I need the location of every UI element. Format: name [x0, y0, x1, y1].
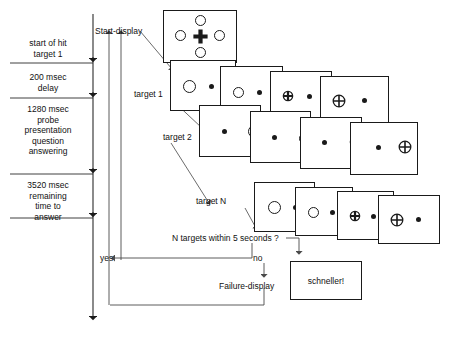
small-dot-stimulus [272, 135, 277, 140]
ring-with-cross-stimulus [398, 140, 412, 154]
failure-display-label: Failure-display [219, 281, 274, 291]
small-dot-stimulus [222, 129, 227, 134]
medium-ring-stimulus [233, 87, 244, 98]
timeline-phase-4: 3520 msec remaining time to answer [5, 180, 91, 222]
small-dot-stimulus [209, 84, 214, 89]
medium-ring-stimulus [308, 207, 319, 218]
feedback-message: schneller! [308, 276, 344, 286]
start-display-label: Start-display [95, 26, 142, 36]
timeline-phase-3: 1280 msec probe presentation question an… [5, 104, 91, 157]
timeline-phase-4-line-1: 3520 msec [27, 180, 69, 190]
decision-label: N targets within 5 seconds ? [172, 233, 279, 243]
target-n-label: target N [196, 196, 226, 206]
target-n-frame-4 [378, 195, 440, 244]
target-2-label: target 2 [163, 132, 192, 142]
diagram-canvas: start of hit target 1 200 msec delay 128… [0, 0, 467, 341]
timeline-phase-1-line-2: target 1 [34, 49, 63, 59]
large-ring-stimulus [183, 80, 196, 93]
feedback-display-box: schneller! [290, 261, 362, 300]
start-ring-bottom [195, 47, 206, 58]
timeline-phase-3-line-2: probe [37, 115, 59, 125]
small-dot-stimulus [307, 94, 312, 99]
yes-label: yes [100, 253, 113, 263]
timeline-phase-4-line-3: time to [35, 201, 61, 211]
timeline-phase-4-line-4: answer [34, 212, 61, 222]
plus-cross-icon [192, 28, 209, 45]
large-ring-stimulus [268, 201, 281, 214]
timeline-phase-3-line-4: question [32, 136, 64, 146]
target-1-label: target 1 [134, 89, 163, 99]
timeline-phase-2-line-2: delay [38, 83, 58, 93]
start-ring-left [175, 30, 186, 41]
return-risers [109, 32, 121, 305]
ring-with-cross-stimulus [332, 94, 346, 108]
small-dot-stimulus [257, 90, 262, 95]
no-label: no [253, 253, 262, 263]
timeline-phase-2: 200 msec delay [5, 72, 91, 93]
small-dot-stimulus [322, 140, 327, 145]
small-dot-stimulus [330, 210, 335, 215]
timeline-phase-1-line-1: start of hit [29, 38, 66, 48]
timeline-phase-3-line-5: answering [29, 146, 68, 156]
small-dot-stimulus [416, 217, 421, 222]
small-ring-with-cross-stimulus [282, 90, 294, 102]
timeline-phase-4-line-2: remaining [29, 191, 66, 201]
small-dot-stimulus [376, 145, 381, 150]
timeline-phase-3-line-1: 1280 msec [27, 104, 69, 114]
small-dot-stimulus [371, 214, 376, 219]
target-2-frame-4 [350, 122, 418, 175]
timeline-phase-1: start of hit target 1 [5, 38, 91, 59]
decision-routing [110, 238, 299, 305]
timeline-phase-3-line-3: presentation [25, 125, 72, 135]
small-ring-with-cross-stimulus [349, 210, 361, 222]
start-ring-right [214, 30, 225, 41]
small-dot-stimulus [362, 98, 367, 103]
ring-with-cross-stimulus [390, 213, 404, 227]
timeline-phase-2-line-1: 200 msec [30, 72, 67, 82]
start-ring-top [195, 15, 206, 26]
start-display-screen [163, 10, 237, 63]
